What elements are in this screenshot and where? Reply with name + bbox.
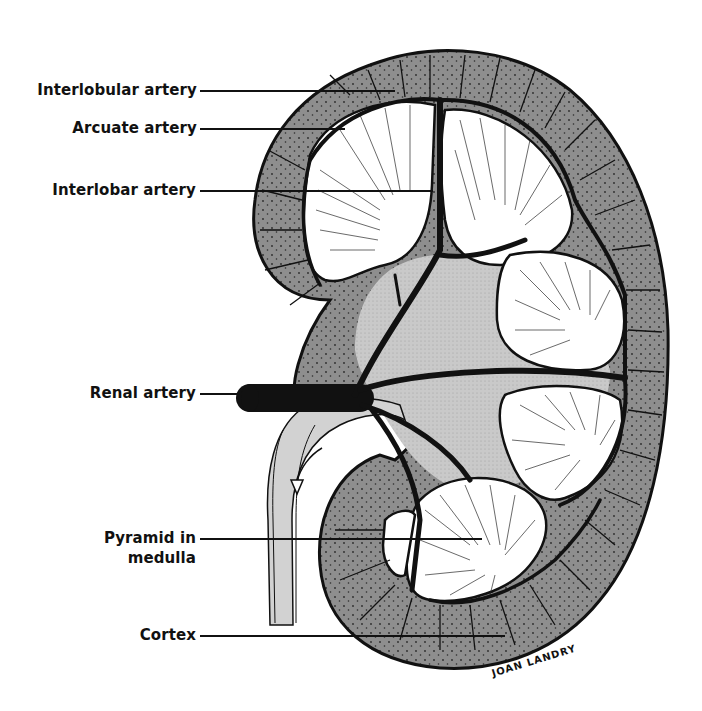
label-pyramid-line-2: medulla xyxy=(104,548,196,568)
kidney-diagram: Interlobular artery Arcuate artery Inter… xyxy=(0,0,702,711)
leader-pyramid-in-medulla xyxy=(200,538,482,540)
leader-renal-artery xyxy=(200,393,242,395)
label-interlobar-artery: Interlobar artery xyxy=(52,180,196,200)
label-renal-artery: Renal artery xyxy=(90,383,196,403)
leader-arcuate-artery xyxy=(200,128,345,130)
label-arcuate-artery: Arcuate artery xyxy=(72,118,197,138)
label-pyramid-in-medulla: Pyramid in medulla xyxy=(104,528,196,568)
label-interlobular-artery: Interlobular artery xyxy=(37,80,197,100)
label-cortex: Cortex xyxy=(140,625,196,645)
kidney-illustration xyxy=(0,0,702,711)
label-pyramid-line-1: Pyramid in xyxy=(104,528,196,548)
leader-cortex xyxy=(200,635,505,637)
leader-interlobular-artery xyxy=(200,90,395,92)
leader-interlobar-artery xyxy=(200,190,433,192)
